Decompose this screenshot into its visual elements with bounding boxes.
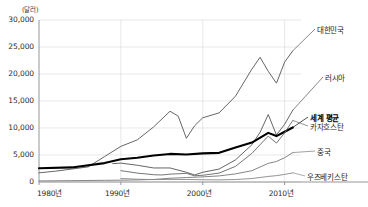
leader-line-러시아 bbox=[293, 77, 323, 110]
y-axis-tick-label: 30,000 bbox=[0, 15, 34, 24]
y-axis-tick-label: 10,000 bbox=[0, 123, 34, 132]
y-axis-tick-label: 25,000 bbox=[0, 42, 34, 51]
leader-line-대한민국 bbox=[293, 29, 315, 51]
y-axis-tick-label: 15,000 bbox=[0, 96, 34, 105]
series-label-카자흐스탄: 카자흐스탄 bbox=[310, 121, 344, 132]
series-label-러시아: 러시아 bbox=[325, 72, 345, 83]
x-axis-tick-label: 1980년 bbox=[37, 187, 62, 198]
x-axis-tick-label: 1990년 bbox=[105, 187, 130, 198]
series-label-대한민국: 대한민국 bbox=[317, 24, 344, 35]
gridlines-group bbox=[39, 20, 301, 182]
leader-line-중국 bbox=[293, 151, 315, 153]
leader-line-우즈베키스탄 bbox=[293, 173, 305, 176]
x-axis-tick-label: 2010년 bbox=[269, 187, 294, 198]
leader-line-카자흐스탄 bbox=[293, 120, 308, 126]
axis-lines-group bbox=[39, 20, 368, 185]
y-axis-tick-label: 5,000 bbox=[0, 150, 34, 159]
series-paths-group bbox=[39, 51, 293, 181]
leader-line-세계 평균 bbox=[293, 117, 308, 127]
y-axis-tick-label: 0 bbox=[0, 177, 34, 186]
x-axis-tick-label: 2000년 bbox=[187, 187, 212, 198]
y-axis-tick-label: 20,000 bbox=[0, 69, 34, 78]
series-label-중국: 중국 bbox=[317, 146, 330, 157]
series-line-세계 평균 bbox=[39, 127, 293, 168]
series-line-카자흐스탄 bbox=[121, 120, 293, 175]
series-label-우즈베키스탄: 우즈베키스탄 bbox=[307, 171, 347, 182]
gdp-per-capita-line-chart: (달러) 05,00010,00015,00020,00025,00030,00… bbox=[0, 0, 368, 207]
